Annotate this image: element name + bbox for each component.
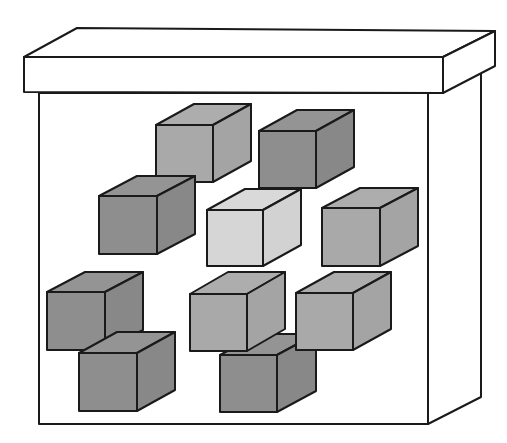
box-lid xyxy=(24,28,495,93)
box-with-cubes-diagram xyxy=(0,0,507,443)
lid-front-face xyxy=(24,57,443,93)
cube-front-face xyxy=(296,293,353,350)
cube-front-face xyxy=(207,210,263,266)
cube-front-face xyxy=(156,125,213,182)
cube-front-face xyxy=(322,208,380,266)
cube-front-face xyxy=(47,292,105,350)
cube-mid-right xyxy=(322,188,418,266)
cube-front-face xyxy=(259,131,316,188)
box-right-side xyxy=(428,66,481,424)
cube-front-face xyxy=(190,294,247,351)
cube-front-face xyxy=(79,353,137,411)
cube-front-face xyxy=(99,196,157,254)
cube-mid-left xyxy=(99,176,195,254)
lid-top-face xyxy=(24,28,495,57)
cube-front-face xyxy=(220,355,277,412)
